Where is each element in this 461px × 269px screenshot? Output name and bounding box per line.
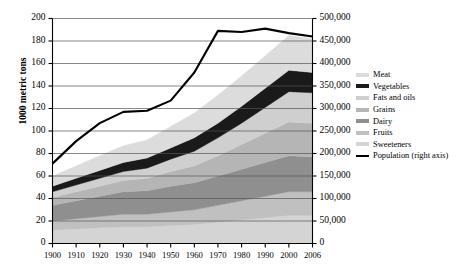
y2-axis-tick-label: 250,000 <box>320 125 351 135</box>
y-axis-tick-label: 180 <box>0 35 46 45</box>
y2-axis-tick-label: 300,000 <box>320 102 351 112</box>
legend-item-label: Fruits <box>373 128 393 137</box>
legend-item[interactable]: Fats and oils <box>356 92 461 104</box>
legend-item[interactable]: Sweeteners <box>356 139 461 151</box>
y2-axis-tick-label: 100,000 <box>320 192 351 202</box>
y-axis-tick-label: 200 <box>0 12 46 22</box>
x-axis-tick-label: 2006 <box>296 250 330 260</box>
y-axis-tick-label: 80 <box>0 147 46 157</box>
legend-swatch-icon <box>356 131 369 135</box>
y2-axis-tick-label: 400,000 <box>320 57 351 67</box>
legend-item[interactable]: Fruits <box>356 127 461 139</box>
legend-item[interactable]: Population (right axis) <box>356 150 461 162</box>
legend-item-label: Vegetables <box>373 82 409 91</box>
legend-item-label: Sweeteners <box>373 140 411 149</box>
legend-item[interactable]: Dairy <box>356 115 461 127</box>
legend-item[interactable]: Grains <box>356 104 461 116</box>
legend-item[interactable]: Meat <box>356 69 461 81</box>
legend-swatch-icon <box>356 155 369 157</box>
legend-item-label: Meat <box>373 70 390 79</box>
y2-axis-tick-label: 500,000 <box>320 12 351 22</box>
y-axis-tick-label: 60 <box>0 170 46 180</box>
y2-axis-tick-label: 150,000 <box>320 170 351 180</box>
legend-item-label: Fats and oils <box>373 93 415 102</box>
legend-item-label: Dairy <box>373 117 392 126</box>
legend-swatch-icon <box>356 108 369 112</box>
y2-axis-tick-label: 450,000 <box>320 35 351 45</box>
legend-item[interactable]: Vegetables <box>356 81 461 93</box>
y2-axis-tick-label: 200,000 <box>320 147 351 157</box>
y-axis-tick-label: 140 <box>0 80 46 90</box>
y-axis-tick-label: 160 <box>0 57 46 67</box>
legend-swatch-icon <box>356 142 369 146</box>
y-axis-tick-label: 20 <box>0 215 46 225</box>
legend-swatch-icon <box>356 84 369 88</box>
y-axis-tick-label: 40 <box>0 192 46 202</box>
y-axis-tick-label: 0 <box>0 237 46 247</box>
y2-axis-tick-label: 350,000 <box>320 80 351 90</box>
legend-swatch-icon <box>356 73 369 77</box>
legend-item-label: Population (right axis) <box>373 151 448 160</box>
legend-swatch-icon <box>356 96 369 100</box>
y2-axis-tick-label: 0 <box>320 237 325 247</box>
chart-container: 1000 metric tons MeatVegetablesFats and … <box>0 0 461 269</box>
chart-legend: MeatVegetablesFats and oilsGrainsDairyFr… <box>356 69 461 162</box>
legend-item-label: Grains <box>373 105 395 114</box>
y2-axis-tick-label: 50,000 <box>320 215 346 225</box>
y-axis-tick-label: 120 <box>0 102 46 112</box>
y-axis-tick-label: 100 <box>0 125 46 135</box>
legend-swatch-icon <box>356 119 369 123</box>
